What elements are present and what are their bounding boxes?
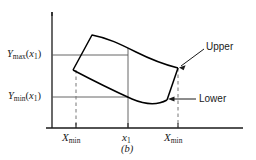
annotation-upper: Upper bbox=[206, 42, 233, 52]
x-axis-label-min-right-sub: min bbox=[171, 136, 183, 145]
y-axis-label-min: Ymin(x1) bbox=[8, 91, 41, 102]
x-axis-label-min-left: Xmin bbox=[62, 132, 80, 144]
y-axis-label-max-close-paren: ) bbox=[38, 48, 42, 59]
upper-leader-line bbox=[181, 49, 204, 66]
lower-leader-arrowhead bbox=[168, 97, 175, 102]
figure-container: Ymax(x1) Ymin(x1) Xmin x1 Xmin Upper Low… bbox=[0, 0, 256, 160]
upper-boundary-curve bbox=[73, 35, 178, 70]
x-axis-label-min-left-main: X bbox=[62, 131, 69, 143]
x-axis-label-min-right: Xmin bbox=[164, 132, 182, 144]
lower-boundary-curve bbox=[73, 70, 167, 104]
figure-caption: (b) bbox=[121, 144, 133, 155]
y-axis-label-min-sub: min bbox=[14, 94, 26, 103]
x-axis-label-min-right-main: X bbox=[164, 131, 171, 143]
annotation-lower: Lower bbox=[199, 94, 226, 104]
y-axis-label-min-close-paren: ) bbox=[37, 90, 41, 101]
y-axis-label-max: Ymax(x1) bbox=[7, 49, 41, 60]
right-edge-segment bbox=[167, 68, 178, 100]
upper-leader-arrowhead bbox=[179, 65, 186, 70]
x-axis-label-min-left-sub: min bbox=[69, 136, 81, 145]
y-axis-label-max-sub: max bbox=[13, 52, 26, 61]
